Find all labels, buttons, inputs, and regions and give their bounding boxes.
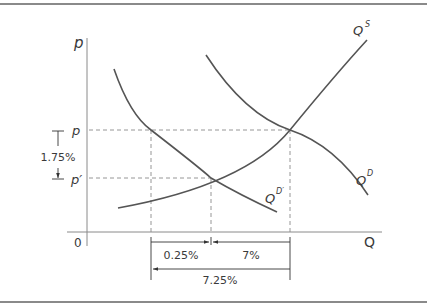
svg-text:1.75%: 1.75% [41,151,76,164]
origin-label: 0 [74,236,82,250]
svg-text:7%: 7% [242,249,259,262]
svg-text:Q: Q [353,23,363,38]
demand-label: Q D [356,169,373,188]
svg-text:7.25%: 7.25% [203,274,238,287]
price-p-label: p [71,123,80,138]
price-p-prime-label: p′ [70,172,82,187]
supply-label: Q S [353,20,370,38]
x-axis-label: Q [364,234,375,250]
quantity-change-dimensions: 0.25% 7% 7.25% [151,237,290,287]
demand-shifted-curve [114,69,277,212]
y-axis-label: p [73,34,84,52]
svg-text:Q: Q [265,191,275,206]
svg-text:0.25%: 0.25% [164,249,199,262]
svg-text:D′: D′ [276,187,284,196]
demand-shifted-label: Q D′ [265,187,284,206]
supply-demand-diagram: p Q 0 p p′ Q S Q D Q D′ 1.75% 0.25% 7% 7… [0,0,427,306]
svg-text:Q: Q [356,173,366,188]
supply-curve [118,40,367,208]
svg-text:D: D [367,169,373,178]
svg-text:S: S [365,20,370,29]
